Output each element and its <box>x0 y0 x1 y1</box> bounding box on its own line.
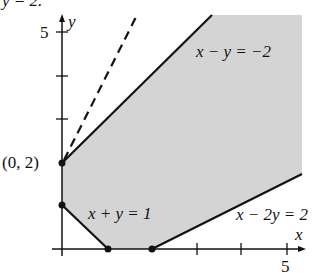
x-axis-arrow-icon <box>298 246 306 252</box>
y-axis-label: y <box>66 12 76 31</box>
y-tick-label-5: 5 <box>40 23 49 42</box>
cutoff-heading: y = 2. <box>0 0 42 10</box>
label-x-minus-2y-eq-2: x − 2y = 2 <box>235 205 309 224</box>
x-axis-label: x <box>294 225 303 244</box>
label-x-minus-y-eq-neg2: x − y = −2 <box>195 42 272 61</box>
feasible-region-plot: y = 2. 5 5 y x (0, 2) x − y = −2 x + y =… <box>0 0 324 275</box>
vertex-label-0-2: (0, 2) <box>2 153 39 172</box>
y-axis-arrow-icon <box>59 14 65 22</box>
x-tick-label-5: 5 <box>281 257 290 275</box>
label-x-plus-y-eq-1: x + y = 1 <box>87 204 152 223</box>
